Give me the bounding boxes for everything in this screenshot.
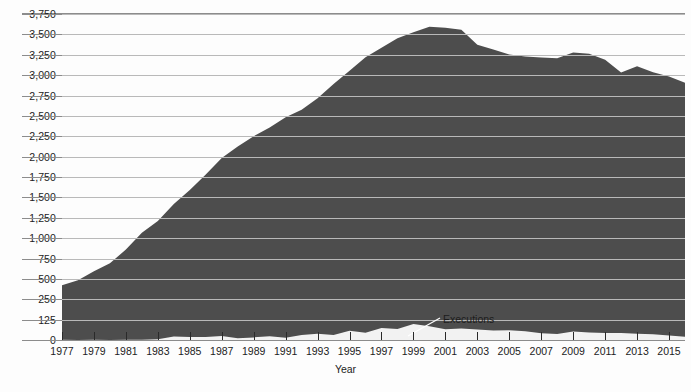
y-tick-rule xyxy=(22,197,62,198)
gridline xyxy=(62,75,685,76)
x-tick-label: 1999 xyxy=(402,345,425,357)
gridline xyxy=(62,14,685,15)
plot-area xyxy=(62,14,685,340)
y-tick-rule xyxy=(22,34,62,35)
x-tick-label: 1983 xyxy=(146,345,169,357)
gridline xyxy=(62,55,685,56)
gridline xyxy=(62,197,685,198)
gridline xyxy=(62,34,685,35)
x-tick xyxy=(637,332,638,340)
x-axis-rule xyxy=(22,340,685,341)
x-tick xyxy=(254,332,255,340)
y-tick-rule xyxy=(22,340,62,341)
x-tick-label: 1993 xyxy=(306,345,329,357)
area-chart: 01252505007501,0001,2501,5001,7502,0002,… xyxy=(0,0,691,392)
x-tick xyxy=(541,332,542,340)
x-tick-label: 1995 xyxy=(338,345,361,357)
y-tick-rule xyxy=(22,299,62,300)
x-tick-label: 1981 xyxy=(114,345,137,357)
x-tick xyxy=(190,332,191,340)
y-tick-rule xyxy=(22,238,62,239)
x-tick-label: 1991 xyxy=(274,345,297,357)
y-tick-rule xyxy=(22,136,62,137)
x-tick-label: 1977 xyxy=(50,345,73,357)
y-tick-rule xyxy=(22,96,62,97)
x-tick-label: 2011 xyxy=(594,345,617,357)
x-tick xyxy=(413,332,414,340)
x-tick xyxy=(350,332,351,340)
x-tick-label: 2009 xyxy=(561,345,584,357)
y-tick-rule xyxy=(22,320,62,321)
y-tick-rule xyxy=(22,279,62,280)
y-tick-rule xyxy=(22,177,62,178)
gridline xyxy=(62,96,685,97)
gridline xyxy=(62,116,685,117)
y-tick-rule xyxy=(22,14,62,15)
y-tick-rule xyxy=(22,116,62,117)
x-axis-title: Year xyxy=(0,363,691,375)
gridline xyxy=(62,259,685,260)
gridline xyxy=(62,218,685,219)
x-tick-label: 1987 xyxy=(210,345,233,357)
x-tick-label: 1997 xyxy=(370,345,393,357)
gridline xyxy=(62,177,685,178)
x-tick xyxy=(669,332,670,340)
gridline xyxy=(62,320,685,321)
x-tick xyxy=(222,332,223,340)
x-tick xyxy=(605,332,606,340)
executions-label: Executions xyxy=(443,313,494,325)
gridline xyxy=(62,279,685,280)
x-tick xyxy=(573,332,574,340)
x-tick-label: 1989 xyxy=(242,345,265,357)
x-tick xyxy=(445,332,446,340)
y-tick-rule xyxy=(22,55,62,56)
x-tick xyxy=(318,332,319,340)
gridline xyxy=(62,157,685,158)
y-tick-rule xyxy=(22,259,62,260)
x-tick xyxy=(381,332,382,340)
x-tick-label: 2007 xyxy=(530,345,553,357)
x-tick xyxy=(286,332,287,340)
y-axis: 01252505007501,0001,2501,5001,7502,0002,… xyxy=(0,0,56,392)
x-tick xyxy=(62,332,63,340)
gridline xyxy=(62,299,685,300)
x-tick-label: 2013 xyxy=(625,345,648,357)
y-tick-rule xyxy=(22,75,62,76)
x-tick xyxy=(126,332,127,340)
x-tick xyxy=(158,332,159,340)
x-tick xyxy=(94,332,95,340)
y-tick-rule xyxy=(22,157,62,158)
x-tick-label: 2015 xyxy=(657,345,680,357)
x-tick xyxy=(509,332,510,340)
gridline xyxy=(62,136,685,137)
death-row-population-area xyxy=(62,27,685,340)
x-tick-label: 2003 xyxy=(466,345,489,357)
x-tick-label: 2001 xyxy=(434,345,457,357)
x-tick-label: 2005 xyxy=(498,345,521,357)
x-tick xyxy=(477,332,478,340)
gridline xyxy=(62,238,685,239)
y-tick-rule xyxy=(22,218,62,219)
x-tick-label: 1979 xyxy=(82,345,105,357)
x-tick-label: 1985 xyxy=(178,345,201,357)
